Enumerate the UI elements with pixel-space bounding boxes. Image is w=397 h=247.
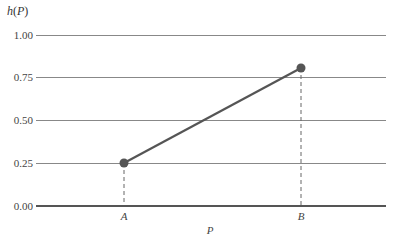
data-point-a <box>120 159 129 168</box>
x-tick-b: B <box>298 210 305 222</box>
x-tick-a: A <box>121 210 128 222</box>
data-point-b <box>297 64 306 73</box>
x-axis-title: P <box>207 224 214 236</box>
series-line <box>124 68 301 163</box>
plot-area <box>0 0 397 247</box>
